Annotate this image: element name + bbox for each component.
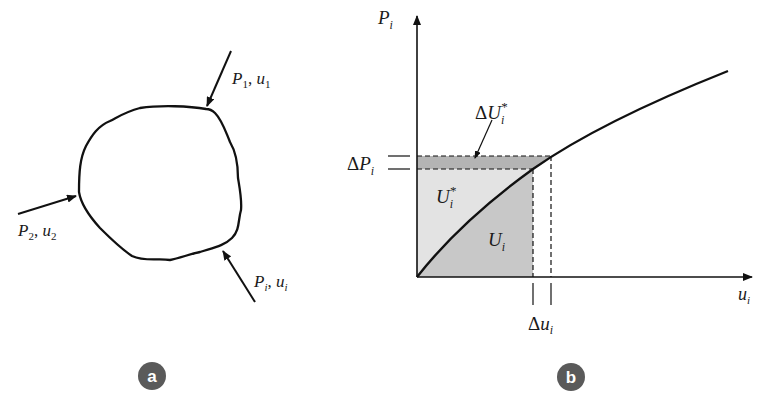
load-arrow-p2 — [18, 196, 76, 214]
delta-u-label: Δui — [528, 313, 553, 337]
panel-b: Pi ui ΔPi Δui ΔUi* Ui* Ui b — [347, 7, 752, 391]
panel-a-badge-label: a — [147, 367, 157, 386]
delta-p-label: ΔPi — [347, 153, 374, 178]
load-arrow-p1 — [207, 51, 231, 106]
elastic-body-outline — [79, 106, 241, 260]
delta-u-star-label: ΔUi* — [475, 99, 508, 127]
load-label-pi: Pi, ui — [253, 272, 288, 293]
load-arrow-pi — [223, 251, 255, 302]
figure-canvas: P1, u1 P2, u2 Pi, ui a — [0, 0, 765, 413]
delta-u-star-leader — [475, 120, 492, 158]
load-label-p1: P1, u1 — [231, 69, 270, 90]
panel-b-badge-label: b — [566, 368, 576, 387]
load-label-p2: P2, u2 — [17, 221, 56, 242]
region-delta-complementary — [417, 156, 551, 169]
panel-a: P1, u1 P2, u2 Pi, ui a — [17, 51, 288, 390]
y-axis-label: Pi — [377, 7, 393, 32]
x-axis-label: ui — [738, 284, 750, 306]
